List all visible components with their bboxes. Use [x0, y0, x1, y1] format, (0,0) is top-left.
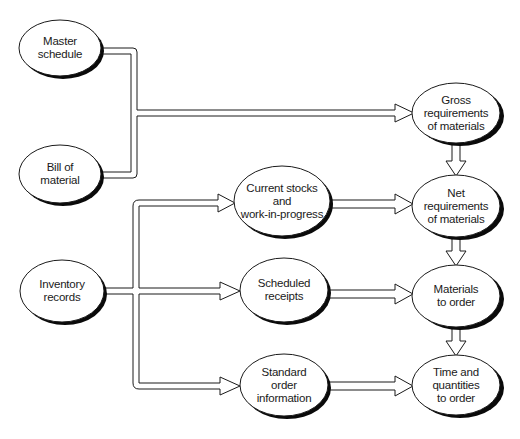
- label-bill-of-material: Bill of material: [19, 145, 101, 203]
- label-net-requirements: Net requirements of materials: [412, 175, 500, 237]
- label-materials-to-order: Materials to order: [412, 265, 500, 327]
- connector-master-bill-to-gross: [100, 48, 414, 178]
- connector-standard-to-time: [328, 376, 413, 396]
- label-master-schedule: Master schedule: [19, 20, 101, 76]
- connector-receipts-to-materials: [328, 284, 413, 304]
- mrp-flow-diagram: Master schedule Bill of material Invento…: [0, 0, 520, 439]
- label-time-and-quantities: Time and quantities to order: [412, 355, 500, 415]
- connector-net-to-materials: [446, 237, 466, 266]
- label-gross-requirements: Gross requirements of materials: [412, 83, 500, 143]
- label-scheduled-receipts: Scheduled receipts: [240, 258, 328, 322]
- label-standard-order-info: Standard order information: [240, 354, 328, 416]
- label-current-stocks: Current stocks and work-in-progress: [234, 166, 330, 236]
- connector-gross-to-net: [446, 143, 466, 176]
- connector-stocks-to-net: [330, 194, 413, 214]
- connector-materials-to-time: [446, 327, 466, 356]
- label-inventory-records: Inventory records: [20, 260, 104, 322]
- connector-inventory-trunk: [103, 194, 240, 395]
